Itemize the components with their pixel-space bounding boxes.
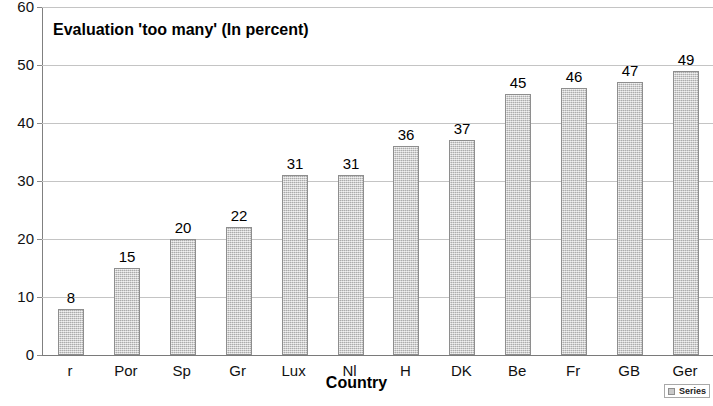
y-axis-tick xyxy=(37,181,42,182)
bar-value-label: 20 xyxy=(163,220,203,235)
y-axis-tick xyxy=(37,65,42,66)
bar-value-label: 31 xyxy=(275,156,315,171)
bar-value-label: 36 xyxy=(386,127,426,142)
chart-legend: Series xyxy=(664,384,710,398)
y-axis-tick xyxy=(37,355,42,356)
gridline xyxy=(42,123,713,124)
bar-value-label: 37 xyxy=(442,121,482,136)
bar-value-label: 46 xyxy=(554,69,594,84)
bar xyxy=(505,94,531,355)
bar-value-label: 8 xyxy=(51,290,91,305)
bar xyxy=(673,71,699,355)
bar xyxy=(393,146,419,355)
y-axis-tick xyxy=(37,297,42,298)
bar-chart: 0102030405060 81520223131363745464749 rP… xyxy=(0,0,713,406)
bar-value-label: 22 xyxy=(219,208,259,223)
y-axis-tick-label: 60 xyxy=(0,0,34,14)
legend-swatch-icon xyxy=(668,388,675,395)
legend-entry-label: Series xyxy=(679,387,706,396)
bar xyxy=(338,175,364,355)
y-axis-tick-label: 50 xyxy=(0,57,34,72)
bar-value-label: 45 xyxy=(498,75,538,90)
y-axis-tick xyxy=(37,123,42,124)
gridline xyxy=(42,355,713,356)
gridline xyxy=(42,181,713,182)
bar-value-label: 47 xyxy=(610,63,650,78)
gridline xyxy=(42,7,713,8)
plot-area: 81520223131363745464749 xyxy=(42,7,713,355)
bar-value-label: 15 xyxy=(107,249,147,264)
y-axis-tick xyxy=(37,239,42,240)
gridline xyxy=(42,239,713,240)
y-axis-tick-label: 20 xyxy=(0,231,34,246)
bar-value-label: 31 xyxy=(331,156,371,171)
y-axis-tick-label: 30 xyxy=(0,173,34,188)
y-axis-tick-label: 40 xyxy=(0,115,34,130)
x-axis-title: Country xyxy=(0,374,713,392)
bar xyxy=(561,88,587,355)
bar xyxy=(226,227,252,355)
bar xyxy=(282,175,308,355)
bar xyxy=(449,140,475,355)
y-axis-tick xyxy=(37,7,42,8)
chart-title: Evaluation 'too many' (In percent) xyxy=(53,21,309,39)
gridline xyxy=(42,297,713,298)
bar xyxy=(114,268,140,355)
y-axis-tick-label: 0 xyxy=(0,347,34,362)
bar xyxy=(170,239,196,355)
bar xyxy=(58,309,84,355)
bar-value-label: 49 xyxy=(666,52,706,67)
bar xyxy=(617,82,643,355)
y-axis-tick-label: 10 xyxy=(0,289,34,304)
